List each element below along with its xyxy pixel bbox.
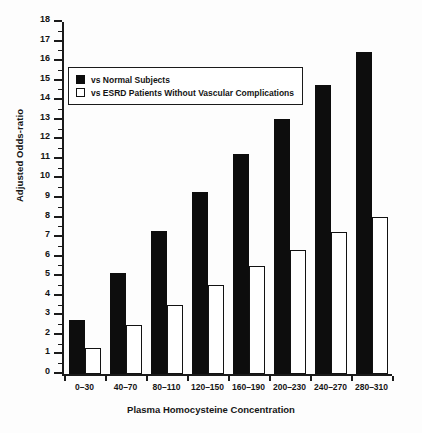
y-axis-tick-label: 17 xyxy=(40,34,50,44)
y-axis-minor-tick xyxy=(58,109,62,110)
legend-entry-esrd-patients: vs ESRD Patients Without Vascular Compli… xyxy=(76,86,294,99)
x-axis-category-label: 40–70 xyxy=(105,382,146,392)
bar-normal-subjects xyxy=(151,231,167,374)
y-axis-minor-tick xyxy=(58,31,62,32)
y-axis-tick: 0 xyxy=(54,372,62,374)
y-axis-tick-label: 5 xyxy=(45,268,50,278)
bar-group xyxy=(315,22,347,374)
y-axis-tick-label: 18 xyxy=(40,14,50,24)
bar-normal-subjects xyxy=(192,192,208,374)
y-axis-tick: 10 xyxy=(54,176,62,178)
y-axis-tick: 14 xyxy=(54,98,62,100)
bar-esrd-patients xyxy=(290,250,306,374)
y-axis-tick-label: 8 xyxy=(45,210,50,220)
legend-entry-normal-subjects: vs Normal Subjects xyxy=(76,73,294,86)
y-axis-tick: 15 xyxy=(54,79,62,81)
y-axis-tick: 7 xyxy=(54,235,62,237)
y-axis-tick: 9 xyxy=(54,196,62,198)
x-axis-category-label: 160–190 xyxy=(228,382,269,392)
y-axis-tick-label: 3 xyxy=(45,307,50,317)
bar-esrd-patients xyxy=(372,217,388,374)
y-axis-tick: 11 xyxy=(54,157,62,159)
legend-label-normal-subjects: vs Normal Subjects xyxy=(91,75,170,85)
y-axis-tick: 13 xyxy=(54,118,62,120)
bar-normal-subjects xyxy=(356,52,372,374)
bar-esrd-patients xyxy=(331,232,347,374)
y-axis-tick: 2 xyxy=(54,333,62,335)
y-axis-tick: 4 xyxy=(54,294,62,296)
x-axis-tick xyxy=(310,376,312,381)
y-axis-minor-tick xyxy=(58,363,62,364)
y-axis-tick-label: 12 xyxy=(40,131,50,141)
x-axis-tick xyxy=(187,376,189,381)
bar-esrd-patients xyxy=(249,266,265,374)
y-axis-tick: 18 xyxy=(54,20,62,22)
y-axis-tick: 17 xyxy=(54,40,62,42)
y-axis-minor-tick xyxy=(58,50,62,51)
x-axis-category-label: 0–30 xyxy=(64,382,105,392)
legend-swatch-open-square-icon xyxy=(76,88,85,97)
y-axis-minor-tick xyxy=(58,305,62,306)
legend-swatch-filled-square-icon xyxy=(76,75,85,84)
x-axis-category-label: 120–150 xyxy=(187,382,228,392)
y-axis-tick-label: 7 xyxy=(45,229,50,239)
y-axis-minor-tick xyxy=(58,344,62,345)
y-axis-tick-label: 13 xyxy=(40,112,50,122)
x-axis-tick xyxy=(269,376,271,381)
bar-esrd-patients xyxy=(167,305,183,374)
bar-normal-subjects xyxy=(110,273,126,374)
x-axis-category-label: 80–110 xyxy=(146,382,187,392)
bar-esrd-patients xyxy=(126,325,142,374)
bar-esrd-patients xyxy=(208,285,224,374)
x-axis-tick xyxy=(351,376,353,381)
y-axis-minor-tick xyxy=(58,187,62,188)
bar-normal-subjects xyxy=(274,119,290,374)
y-axis-tick-label: 9 xyxy=(45,190,50,200)
y-axis-minor-tick xyxy=(58,265,62,266)
x-axis-category-label: 200–230 xyxy=(269,382,310,392)
x-axis-tick xyxy=(146,376,148,381)
y-axis-tick-label: 11 xyxy=(40,151,50,161)
y-axis-tick-label: 2 xyxy=(45,327,50,337)
x-axis-tick xyxy=(64,376,66,381)
y-axis-tick: 16 xyxy=(54,59,62,61)
y-axis-tick: 6 xyxy=(54,255,62,257)
x-axis-tick xyxy=(228,376,230,381)
y-axis-tick: 8 xyxy=(54,216,62,218)
bar-group xyxy=(356,22,388,374)
y-axis-minor-tick xyxy=(58,207,62,208)
y-axis-tick-label: 15 xyxy=(40,73,50,83)
chart-legend: vs Normal Subjects vs ESRD Patients With… xyxy=(68,67,303,105)
y-axis-tick: 12 xyxy=(54,137,62,139)
y-axis-tick-label: 16 xyxy=(40,53,50,63)
bar-normal-subjects xyxy=(69,320,85,374)
x-axis-line xyxy=(62,374,392,376)
bar-normal-subjects xyxy=(315,85,331,374)
y-axis-tick-label: 0 xyxy=(45,366,50,376)
x-axis-category-label: 280–310 xyxy=(351,382,392,392)
y-axis-minor-tick xyxy=(58,89,62,90)
y-axis-tick-label: 14 xyxy=(40,92,50,102)
y-axis-minor-tick xyxy=(58,285,62,286)
y-axis-minor-tick xyxy=(58,129,62,130)
bar-esrd-patients xyxy=(85,348,101,374)
bar-normal-subjects xyxy=(233,154,249,374)
x-axis-tick xyxy=(392,376,394,381)
y-axis-tick-label: 10 xyxy=(40,170,50,180)
y-axis-minor-tick xyxy=(58,148,62,149)
y-axis-title: Adjusted Odds-ratio xyxy=(14,86,25,226)
legend-label-esrd-patients: vs ESRD Patients Without Vascular Compli… xyxy=(91,88,294,98)
y-axis-tick-label: 6 xyxy=(45,249,50,259)
x-axis-title: Plasma Homocysteine Concentration xyxy=(0,404,422,415)
x-axis-category-label: 240–270 xyxy=(310,382,351,392)
y-axis-minor-tick xyxy=(58,246,62,247)
y-axis-tick-label: 1 xyxy=(45,346,50,356)
y-axis-tick: 3 xyxy=(54,313,62,315)
y-axis-minor-tick xyxy=(58,168,62,169)
y-axis-tick: 1 xyxy=(54,352,62,354)
bar-chart-figure: Adjusted Odds-ratio 01234567891011121314… xyxy=(0,0,422,433)
y-axis-tick-label: 4 xyxy=(45,288,50,298)
y-axis-minor-tick xyxy=(58,324,62,325)
y-axis-minor-tick xyxy=(58,70,62,71)
y-axis-tick: 5 xyxy=(54,274,62,276)
